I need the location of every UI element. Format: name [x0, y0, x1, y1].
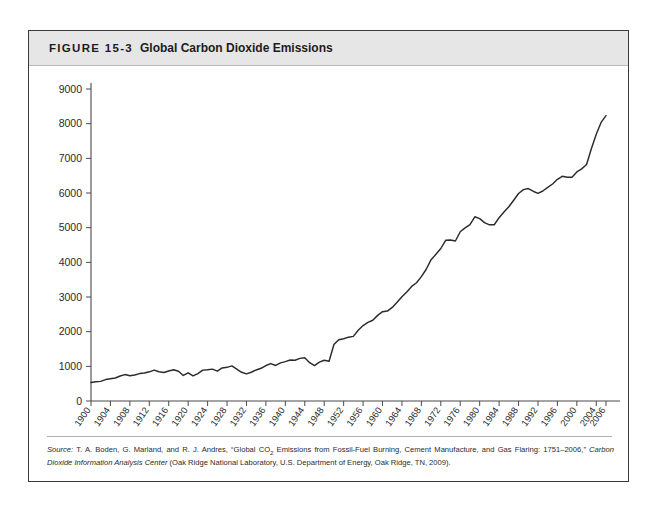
- svg-text:1908: 1908: [111, 405, 131, 428]
- source-text-3: (Oak Ridge National Laboratory, U.S. Dep…: [167, 458, 450, 467]
- svg-text:2000: 2000: [59, 325, 83, 337]
- svg-text:1924: 1924: [189, 405, 209, 428]
- chart-plot-area: 0100020003000400050006000700080009000 19…: [29, 67, 628, 439]
- source-label: Source:: [47, 445, 73, 454]
- svg-text:1996: 1996: [539, 405, 559, 428]
- svg-text:1948: 1948: [306, 405, 326, 428]
- svg-text:6000: 6000: [59, 187, 83, 199]
- source-text-2: Emissions from Fossil-Fuel Burning, Ceme…: [273, 445, 589, 454]
- figure-title-label: Global Carbon Dioxide Emissions: [140, 41, 333, 55]
- svg-text:1980: 1980: [461, 405, 481, 428]
- source-text-1: T. A. Boden, G. Marland, and R. J. Andre…: [73, 445, 270, 454]
- svg-text:1900: 1900: [73, 405, 93, 428]
- svg-text:1984: 1984: [481, 405, 501, 428]
- svg-text:1940: 1940: [267, 405, 287, 428]
- svg-text:1960: 1960: [364, 405, 384, 428]
- svg-text:1944: 1944: [286, 405, 306, 428]
- figure-header: FIGURE 15-3 Global Carbon Dioxide Emissi…: [29, 31, 628, 66]
- figure-number-label: FIGURE 15-3: [49, 42, 133, 54]
- svg-text:3000: 3000: [59, 291, 83, 303]
- svg-text:1992: 1992: [520, 405, 540, 428]
- svg-text:1928: 1928: [209, 405, 229, 428]
- svg-text:1932: 1932: [228, 405, 248, 428]
- svg-text:1988: 1988: [500, 405, 520, 428]
- svg-text:1000: 1000: [59, 360, 83, 372]
- figure-container: FIGURE 15-3 Global Carbon Dioxide Emissi…: [28, 30, 629, 482]
- svg-text:0: 0: [76, 395, 82, 407]
- svg-text:1968: 1968: [403, 405, 423, 428]
- data-series-line: [91, 116, 606, 383]
- source-divider: [47, 436, 612, 437]
- x-axis: 1900190419081912191619201924192819321936…: [73, 401, 620, 428]
- svg-text:1964: 1964: [384, 405, 404, 428]
- svg-text:1920: 1920: [170, 405, 190, 428]
- svg-text:8000: 8000: [59, 117, 83, 129]
- svg-text:1956: 1956: [345, 405, 365, 428]
- svg-text:1916: 1916: [150, 405, 170, 428]
- source-citation: Source: T. A. Boden, G. Marland, and R. …: [47, 444, 614, 469]
- svg-text:7000: 7000: [59, 152, 83, 164]
- svg-text:4000: 4000: [59, 256, 83, 268]
- emissions-line-chart: 0100020003000400050006000700080009000 19…: [29, 67, 628, 439]
- svg-text:5000: 5000: [59, 221, 83, 233]
- y-axis: 0100020003000400050006000700080009000: [59, 83, 91, 407]
- svg-text:1904: 1904: [92, 405, 112, 428]
- svg-text:1912: 1912: [131, 405, 151, 428]
- svg-text:1972: 1972: [422, 405, 442, 428]
- svg-text:1952: 1952: [325, 405, 345, 428]
- svg-text:9000: 9000: [59, 83, 83, 95]
- svg-text:2000: 2000: [558, 405, 578, 428]
- svg-text:1936: 1936: [247, 405, 267, 428]
- svg-text:1976: 1976: [442, 405, 462, 428]
